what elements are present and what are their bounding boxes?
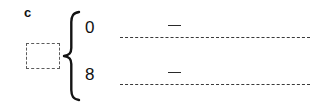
tick-mark-icon-1 (168, 72, 181, 73)
dashed-baseline-1 (120, 84, 310, 85)
row-label-1: 8 (85, 66, 94, 83)
curly-brace-icon (60, 10, 82, 102)
dashed-baseline-0 (120, 37, 310, 38)
dashed-placeholder-box (26, 43, 60, 69)
panel-label: c (24, 6, 31, 19)
row-label-0: 0 (85, 19, 94, 36)
tick-mark-icon-0 (168, 25, 181, 26)
figure-panel: c 0 8 (0, 0, 324, 102)
